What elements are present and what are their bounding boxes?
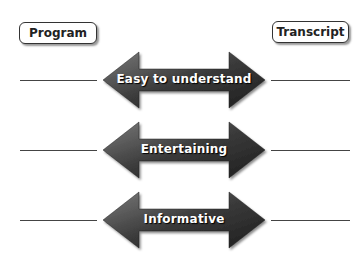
arrow-label-informative: Informative: [103, 212, 265, 226]
arrow-label-entertaining: Entertaining: [103, 142, 265, 156]
arrow-label-easy: Easy to understand: [103, 72, 265, 86]
